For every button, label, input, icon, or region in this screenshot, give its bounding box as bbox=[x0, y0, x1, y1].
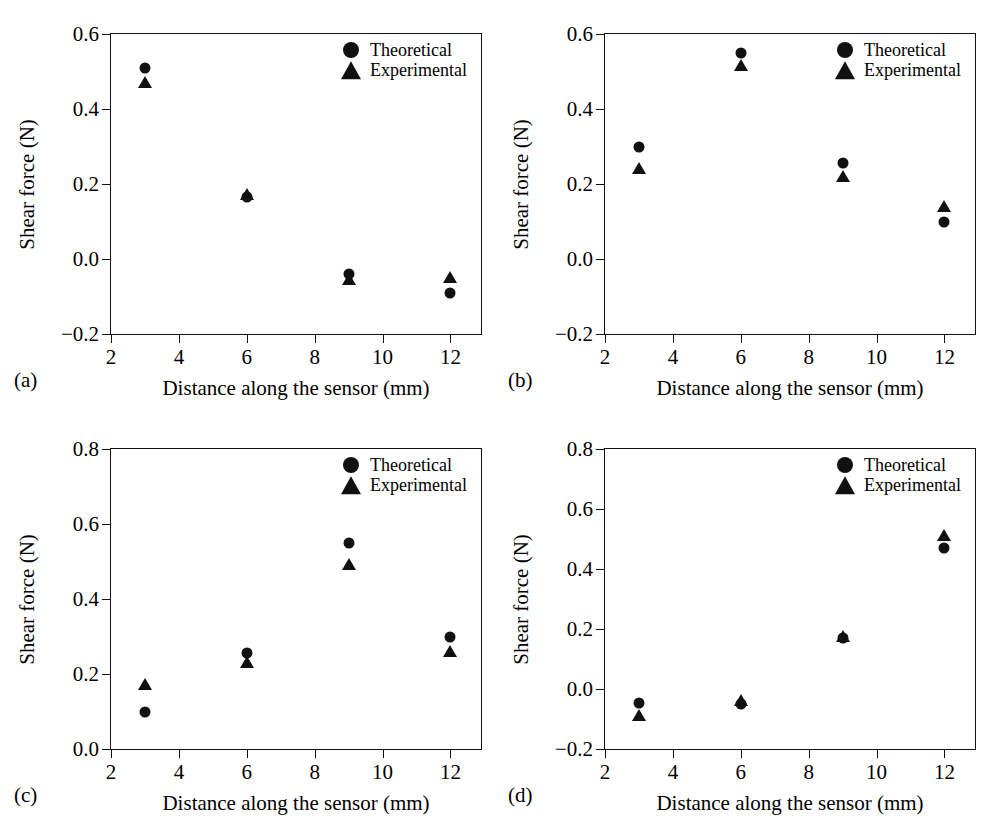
x-axis-tick bbox=[877, 749, 878, 758]
data-point-experimental bbox=[734, 59, 748, 71]
x-axis-title: Distance along the sensor (mm) bbox=[604, 791, 976, 816]
panel-caption-a: (a) bbox=[14, 368, 37, 393]
x-axis-tick-label: 12 bbox=[934, 762, 955, 783]
x-axis-tick bbox=[315, 749, 316, 758]
x-axis-tick bbox=[741, 334, 742, 343]
data-point-experimental bbox=[138, 678, 152, 690]
x-axis-tick bbox=[605, 749, 606, 758]
legend-label-theoretical: Theoretical bbox=[864, 40, 961, 60]
panel-c: Shear force (N) 0.00.20.40.60.824681012T… bbox=[0, 415, 493, 829]
x-axis-tick bbox=[383, 334, 384, 343]
y-axis-tick-label: 0.0 bbox=[567, 679, 593, 700]
y-axis-tick bbox=[596, 184, 605, 185]
x-axis-tick-label: 4 bbox=[174, 347, 185, 368]
data-point-theoretical bbox=[633, 697, 644, 708]
y-axis-tick bbox=[102, 674, 111, 675]
y-axis-tick-label: 0.8 bbox=[73, 439, 99, 460]
data-point-experimental bbox=[632, 709, 646, 721]
panel-caption-c: (c) bbox=[14, 783, 37, 808]
data-point-experimental bbox=[240, 656, 254, 668]
data-point-experimental bbox=[443, 645, 457, 657]
y-axis-tick bbox=[102, 749, 111, 750]
data-point-experimental bbox=[443, 271, 457, 283]
x-axis-tick bbox=[450, 749, 451, 758]
legend-labels: TheoreticalExperimental bbox=[370, 455, 467, 495]
plot-area-b: −0.20.00.20.40.624681012TheoreticalExper… bbox=[604, 33, 976, 335]
legend-label-experimental: Experimental bbox=[864, 60, 961, 80]
y-axis-tick-label: 0.6 bbox=[73, 24, 99, 45]
legend: TheoreticalExperimental bbox=[835, 455, 961, 495]
legend-markers bbox=[341, 40, 361, 80]
y-axis-title: Shear force (N) bbox=[14, 448, 40, 750]
x-axis-tick-label: 4 bbox=[668, 347, 679, 368]
x-axis-tick-label: 6 bbox=[242, 347, 253, 368]
y-axis-tick-label: 0.4 bbox=[567, 99, 593, 120]
x-axis-tick bbox=[877, 334, 878, 343]
x-axis-tick-label: 10 bbox=[866, 347, 887, 368]
data-point-theoretical bbox=[343, 537, 354, 548]
legend-label-theoretical: Theoretical bbox=[370, 455, 467, 475]
x-axis-tick-label: 10 bbox=[372, 347, 393, 368]
x-axis-tick bbox=[179, 334, 180, 343]
y-axis-tick-label: 0.0 bbox=[567, 249, 593, 270]
legend: TheoreticalExperimental bbox=[835, 40, 961, 80]
x-axis-tick-label: 4 bbox=[174, 762, 185, 783]
y-axis-tick-label: 0.6 bbox=[567, 499, 593, 520]
legend-label-theoretical: Theoretical bbox=[370, 40, 467, 60]
x-axis-tick-label: 8 bbox=[309, 762, 320, 783]
legend: TheoreticalExperimental bbox=[341, 40, 467, 80]
y-axis-tick-label: 0.4 bbox=[567, 559, 593, 580]
legend-triangle-icon bbox=[835, 476, 855, 494]
y-axis-tick-label: 0.6 bbox=[73, 514, 99, 535]
x-axis-tick bbox=[944, 749, 945, 758]
x-axis-tick-label: 8 bbox=[803, 762, 814, 783]
x-axis-tick bbox=[111, 749, 112, 758]
x-axis-tick bbox=[179, 749, 180, 758]
y-axis-tick bbox=[596, 689, 605, 690]
x-axis-tick-label: 6 bbox=[242, 762, 253, 783]
y-axis-tick-label: −0.2 bbox=[61, 324, 99, 345]
x-axis-tick-label: 2 bbox=[600, 762, 611, 783]
y-axis-tick-label: 0.0 bbox=[73, 739, 99, 760]
panel-b: Shear force (N) −0.20.00.20.40.624681012… bbox=[494, 0, 987, 414]
data-point-theoretical bbox=[139, 706, 150, 717]
y-axis-tick-label: 0.4 bbox=[73, 589, 99, 610]
legend-label-experimental: Experimental bbox=[864, 475, 961, 495]
y-axis-title: Shear force (N) bbox=[508, 33, 534, 335]
data-point-experimental bbox=[342, 273, 356, 285]
y-axis-tick bbox=[102, 449, 111, 450]
data-point-experimental bbox=[836, 170, 850, 182]
y-axis-tick bbox=[596, 749, 605, 750]
legend-circle-icon bbox=[343, 42, 359, 58]
y-axis-title: Shear force (N) bbox=[508, 448, 534, 750]
y-axis-tick bbox=[102, 334, 111, 335]
x-axis-tick bbox=[383, 749, 384, 758]
y-axis-tick bbox=[102, 524, 111, 525]
y-axis-tick bbox=[596, 509, 605, 510]
y-axis-tick bbox=[102, 34, 111, 35]
x-axis-tick bbox=[315, 334, 316, 343]
figure-four-scatter-panels: Shear force (N) −0.20.00.20.40.624681012… bbox=[0, 0, 987, 829]
y-axis-tick-label: 0.4 bbox=[73, 99, 99, 120]
plot-area-a: −0.20.00.20.40.624681012TheoreticalExper… bbox=[110, 33, 482, 335]
y-axis-tick-label: 0.0 bbox=[73, 249, 99, 270]
legend-labels: TheoreticalExperimental bbox=[370, 40, 467, 80]
x-axis-tick-label: 2 bbox=[106, 762, 117, 783]
x-axis-tick-label: 6 bbox=[736, 347, 747, 368]
x-axis-tick-label: 8 bbox=[803, 347, 814, 368]
y-axis-tick bbox=[596, 334, 605, 335]
legend-triangle-icon bbox=[341, 476, 361, 494]
legend-labels: TheoreticalExperimental bbox=[864, 40, 961, 80]
legend-markers bbox=[835, 455, 855, 495]
y-axis-tick bbox=[102, 599, 111, 600]
x-axis-tick-label: 10 bbox=[866, 762, 887, 783]
y-axis-tick-label: −0.2 bbox=[555, 324, 593, 345]
y-axis-tick bbox=[596, 449, 605, 450]
x-axis-tick bbox=[809, 749, 810, 758]
data-point-experimental bbox=[937, 200, 951, 212]
y-axis-tick bbox=[596, 34, 605, 35]
x-axis-tick-label: 4 bbox=[668, 762, 679, 783]
y-axis-tick bbox=[596, 259, 605, 260]
panel-a: Shear force (N) −0.20.00.20.40.624681012… bbox=[0, 0, 493, 414]
data-point-theoretical bbox=[837, 158, 848, 169]
